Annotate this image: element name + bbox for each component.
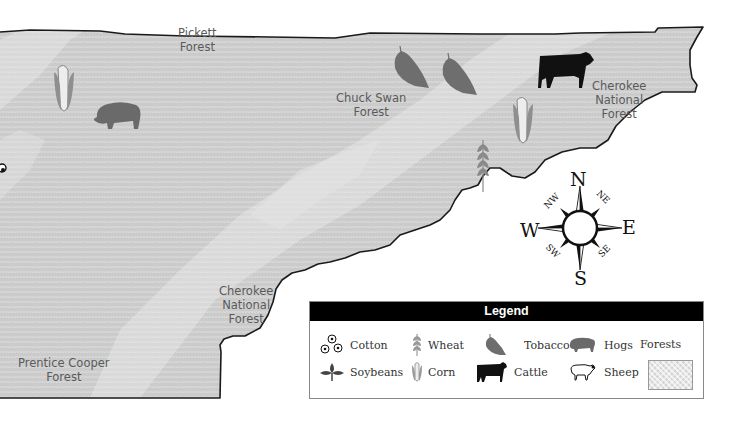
legend-label: Sheep	[604, 366, 639, 379]
legend-item-soybeans: Soybeans	[318, 361, 403, 383]
soybean-icon	[318, 361, 346, 383]
wheat-icon	[410, 334, 424, 356]
sheep-icon	[568, 361, 596, 383]
legend-label: Tobacco	[524, 339, 570, 352]
label-line: Prentice Cooper	[18, 356, 110, 370]
cotton-icon	[0, 164, 6, 172]
legend-item-corn: Corn	[410, 361, 455, 383]
label-prentice-cooper-forest: Prentice Cooper Forest	[18, 356, 110, 384]
corn-icon	[410, 361, 424, 383]
label-line: National	[219, 298, 273, 312]
legend-label: Soybeans	[350, 366, 403, 379]
label-cherokee-national-forest-ne: Cherokee National Forest	[592, 79, 646, 121]
cotton-icon	[318, 334, 346, 356]
legend-item-cotton: Cotton	[318, 334, 388, 356]
label-line: National	[592, 93, 646, 107]
legend-label: Wheat	[428, 339, 464, 352]
label-pickett-forest: Pickett Forest	[178, 26, 217, 54]
label-line: Forest	[18, 370, 110, 384]
compass-west: W	[520, 219, 540, 241]
compass-east: E	[622, 216, 636, 238]
legend-forests-label: Forests	[640, 338, 681, 351]
label-line: Cherokee	[219, 284, 273, 298]
forest-swatch	[648, 360, 693, 390]
legend-item-wheat: Wheat	[410, 334, 464, 356]
label-line: Forest	[592, 107, 646, 121]
legend-item-hogs: Hogs	[568, 334, 633, 356]
legend-title: Legend	[310, 302, 703, 321]
hog-icon	[568, 334, 596, 356]
legend-label: Cattle	[514, 366, 548, 379]
legend-label: Hogs	[604, 339, 633, 352]
legend-item-cattle: Cattle	[476, 361, 548, 383]
legend-label: Cotton	[350, 339, 388, 352]
label-line: Forest	[178, 40, 217, 54]
label-line: Chuck Swan	[336, 91, 406, 105]
legend-label: Corn	[428, 366, 455, 379]
compass-north: N	[570, 168, 587, 190]
legend-item-sheep: Sheep	[568, 361, 639, 383]
label-line: Forest	[219, 312, 273, 326]
label-line: Forest	[336, 105, 406, 119]
tobacco-leaf-icon	[482, 334, 510, 356]
label-chuck-swan-forest: Chuck Swan Forest	[336, 91, 406, 119]
legend-panel: Legend Cotton Wheat Tobacco Hogs Soybean…	[309, 301, 704, 399]
label-line: Cherokee	[592, 79, 646, 93]
cattle-icon	[476, 361, 508, 383]
label-cherokee-national-forest-sw: Cherokee National Forest	[219, 284, 273, 326]
compass-south: S	[574, 267, 587, 289]
label-line: Pickett	[178, 26, 217, 40]
legend-item-tobacco: Tobacco	[482, 334, 570, 356]
